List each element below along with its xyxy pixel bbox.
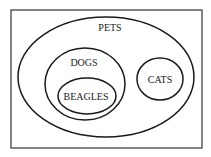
venn-diagram: PETS DOGS BEAGLES CATS	[0, 0, 211, 157]
dogs-label: DOGS	[70, 57, 97, 68]
cats-label: CATS	[148, 74, 172, 85]
beagles-label: BEAGLES	[64, 91, 109, 102]
pets-label: PETS	[98, 22, 121, 33]
